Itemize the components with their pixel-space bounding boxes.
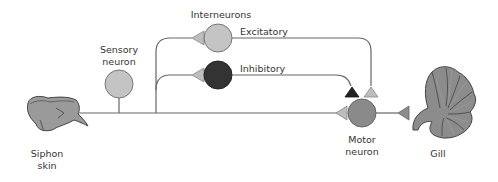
excitatory-to-motor-synapse — [364, 87, 378, 97]
inhibitory-axon — [232, 75, 351, 86]
inhibitory-interneuron — [204, 61, 232, 89]
siphon-skin-icon — [27, 96, 88, 131]
motor-to-gill-synapse — [398, 106, 409, 120]
inhibitory-synapse — [192, 68, 204, 82]
siphon-skin-label: Siphon skin — [22, 148, 72, 172]
inhibitory-to-motor-synapse — [345, 87, 359, 97]
interneurons-label: Interneurons — [186, 9, 256, 21]
gill-label: Gill — [418, 148, 458, 160]
excitatory-label: Excitatory — [240, 26, 288, 38]
sensory-neuron — [105, 70, 133, 98]
excitatory-synapse — [192, 31, 204, 45]
motor-neuron-label: Motor neuron — [337, 134, 387, 158]
gill-icon — [413, 67, 476, 138]
inhibitory-label: Inhibitory — [240, 63, 285, 75]
excitatory-interneuron — [204, 24, 232, 52]
excitatory-axon — [232, 38, 371, 86]
sensory-neuron-label: Sensory neuron — [94, 44, 144, 68]
motor-neuron — [348, 99, 376, 127]
sensory-to-motor-synapse — [336, 106, 347, 120]
branch-inhibitory — [156, 75, 192, 90]
